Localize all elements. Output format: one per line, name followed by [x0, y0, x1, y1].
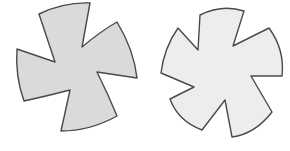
figure-canvas: [0, 0, 290, 151]
four-arm-pinwheel-shape: [17, 3, 137, 131]
shapes-diagram: [0, 0, 290, 151]
five-arm-pinwheel-shape: [161, 8, 282, 137]
